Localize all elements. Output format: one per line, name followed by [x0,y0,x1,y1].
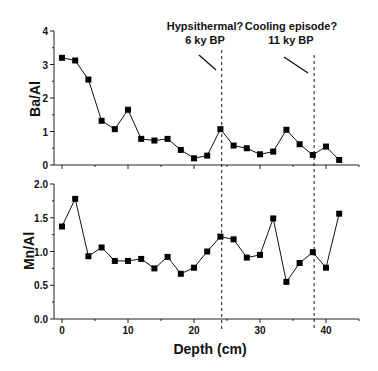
data-point-marker [336,157,342,163]
data-point-marker [59,224,65,230]
data-point-marker [178,271,184,277]
data-point-marker [283,279,289,285]
data-point-marker [310,152,316,158]
annotation-pointer-2 [284,57,308,73]
data-point-marker [191,265,197,271]
chart: 01234 0.00.51.01.52.0010203040 Hypsither… [0,0,378,371]
data-point-marker [297,260,303,266]
series-line [62,199,339,282]
y-tick-label: 4 [42,26,48,37]
data-point-marker [217,234,223,240]
data-point-marker [270,149,276,155]
data-point-marker [151,265,157,271]
y-tick-label: 0 [42,160,48,171]
bottom-y-axis-label: Mn/Al [21,232,37,270]
data-point-marker [217,126,223,132]
data-point-marker [165,136,171,142]
data-point-marker [178,147,184,153]
top-y-axis-label: Ba/Al [27,81,43,117]
data-point-marker [310,249,316,255]
data-point-marker [297,141,303,147]
data-point-marker [204,249,210,255]
x-axis-label: Depth (cm) [173,341,246,357]
y-tick-label: 1 [42,127,48,138]
data-point-marker [257,252,263,258]
data-point-marker [99,244,105,250]
y-tick-label: 1.5 [34,213,48,224]
data-point-marker [138,136,144,142]
annotation-cooling-line1: Cooling episode? [245,20,338,32]
data-point-marker [112,126,118,132]
data-point-marker [138,256,144,262]
x-tick-label: 20 [188,325,200,336]
y-tick-label: 2 [42,93,48,104]
data-point-marker [112,258,118,264]
data-point-marker [85,253,91,259]
data-point-marker [204,153,210,159]
ba-al-panel: 01234 [42,26,359,171]
data-point-marker [257,151,263,157]
y-tick-label: 3 [42,60,48,71]
data-point-marker [283,127,289,133]
mn-al-panel: 0.00.51.01.52.0010203040 [34,179,359,336]
annotation-hypsithermal-line2: 6 ky BP [185,34,225,46]
annotation-cooling-line2: 11 ky BP [268,34,313,46]
x-tick-label: 0 [59,325,65,336]
y-tick-label: 0.0 [34,314,48,325]
data-point-marker [244,145,250,151]
data-point-marker [231,143,237,149]
data-point-marker [244,255,250,261]
data-point-marker [165,254,171,260]
data-point-marker [336,211,342,217]
data-point-marker [125,107,131,113]
x-tick-label: 30 [254,325,266,336]
x-tick-label: 40 [320,325,332,336]
data-point-marker [231,236,237,242]
y-tick-label: 0.5 [34,280,48,291]
data-point-marker [191,155,197,161]
data-point-marker [72,57,78,63]
annotation-hypsithermal-line1: Hypsithermal? [167,20,244,32]
data-point-marker [151,138,157,144]
annotations: Hypsithermal? 6 ky BP Cooling episode? 1… [167,20,338,73]
data-point-marker [323,144,329,150]
data-point-marker [125,258,131,264]
event-lines [222,50,314,329]
y-tick-label: 2.0 [34,179,48,190]
data-point-marker [270,215,276,221]
x-tick-label: 10 [122,325,134,336]
data-point-marker [323,265,329,271]
data-point-marker [85,77,91,83]
annotation-pointer-1 [199,55,216,70]
data-point-marker [99,118,105,124]
data-point-marker [59,55,65,61]
data-point-marker [72,196,78,202]
